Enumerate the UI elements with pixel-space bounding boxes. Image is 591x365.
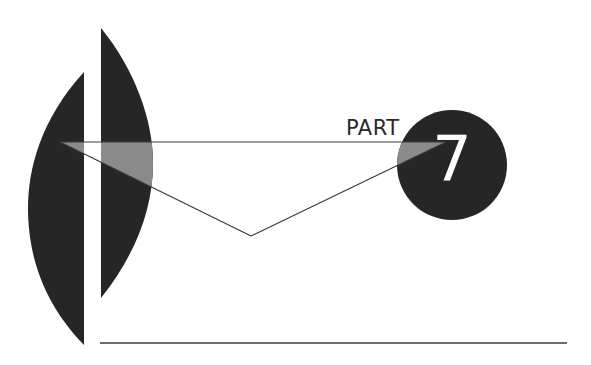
triangle-left-diagonal [60, 142, 251, 236]
part-label: PART [346, 118, 400, 139]
part-divider-artwork [0, 0, 591, 365]
part-number: 7 [424, 128, 480, 190]
left-half-ellipse [28, 72, 84, 345]
